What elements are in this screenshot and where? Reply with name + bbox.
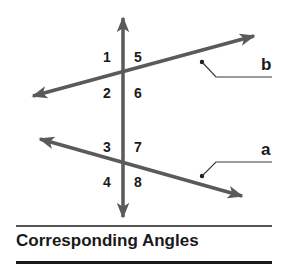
angle-6-label: 6	[134, 85, 142, 101]
line-a-leader	[202, 162, 272, 176]
caption-bottom-rule	[16, 261, 272, 264]
line-b-label: b	[261, 55, 271, 74]
line-a-label: a	[261, 140, 271, 159]
angle-7-label: 7	[134, 139, 142, 155]
diagram-title: Corresponding Angles	[16, 231, 199, 251]
angle-5-label: 5	[134, 49, 142, 65]
angle-1-label: 1	[103, 49, 111, 65]
line-a-callout: a	[200, 140, 272, 178]
corresponding-angles-diagram: 1 5 2 6 3 7 4 8 b a Corresponding Angles	[0, 0, 286, 276]
angle-4-label: 4	[103, 174, 111, 190]
line-b	[33, 36, 254, 96]
angle-3-label: 3	[103, 139, 111, 155]
line-b-callout: b	[200, 55, 272, 77]
angle-8-label: 8	[134, 174, 142, 190]
caption-top-rule	[16, 225, 272, 227]
angle-2-label: 2	[103, 85, 111, 101]
